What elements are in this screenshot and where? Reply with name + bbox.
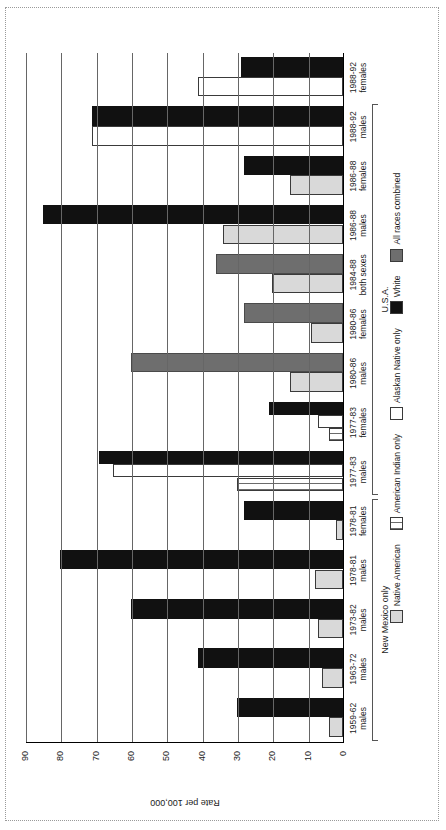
category-label: 1986-88males: [348, 210, 368, 241]
bar-native-american: [315, 570, 343, 590]
bar-native-american: [329, 717, 343, 737]
category-period: 1988-92: [348, 62, 358, 93]
category-label: 1978-81males: [348, 555, 368, 586]
category-sex: females: [358, 161, 368, 191]
bar-white: [244, 501, 343, 521]
gridline: [273, 53, 274, 742]
y-tick-label: 10: [303, 751, 313, 761]
y-tick-label: 20: [267, 751, 277, 761]
gridline: [238, 53, 239, 742]
category-label: 1973-82males: [348, 604, 368, 635]
category-sex: males: [358, 362, 368, 385]
bar-all-races-combined: [244, 303, 343, 323]
legend-item: Native American: [390, 544, 403, 623]
category-sex: females: [358, 408, 368, 438]
gridline: [26, 53, 27, 742]
legend-item: White: [390, 276, 403, 315]
category-label: 1986-88females: [348, 161, 368, 192]
bar-white: [237, 698, 343, 718]
bar-white: [241, 57, 343, 77]
plot-wrapper: 0102030405060708090 Rate per 100,000 195…: [18, 15, 428, 815]
category-sex: males: [358, 214, 368, 237]
y-tick-label: 80: [55, 751, 65, 761]
category-sex: males: [358, 116, 368, 139]
bar-white: [244, 156, 343, 176]
gridline: [203, 53, 204, 742]
legend-item: Alaskan Native only: [390, 328, 403, 420]
y-tick-label: 70: [91, 751, 101, 761]
category-label: 1963-72males: [348, 653, 368, 684]
bar-white: [43, 205, 343, 225]
bar-white: [131, 599, 343, 619]
category-label: 1988-92males: [348, 111, 368, 142]
category-sex: males: [358, 608, 368, 631]
category-period: 1986-88: [348, 210, 358, 241]
plot-area: [26, 53, 344, 743]
bar-layer: [26, 53, 343, 742]
group-bracket: [372, 499, 378, 741]
bar-native-american: [336, 520, 343, 540]
bar-alaskan-native-only: [318, 415, 343, 428]
alaskan-native-only-swatch: [390, 407, 403, 420]
category-period: 1973-82: [348, 604, 358, 635]
y-tick-label: 60: [126, 751, 136, 761]
chart-stage: 0102030405060708090 Rate per 100,000 195…: [18, 15, 428, 815]
bar-native-american: [223, 225, 343, 245]
gridline: [132, 53, 133, 742]
category-sex: males: [358, 461, 368, 484]
category-period: 1980-86: [348, 358, 358, 389]
y-tick-label: 90: [20, 751, 30, 761]
bar-white: [269, 402, 343, 415]
bar-american-indian-only: [237, 478, 343, 491]
category-sex: males: [358, 707, 368, 730]
category-label: 1980-86females: [348, 308, 368, 339]
gridline: [61, 53, 62, 742]
bar-native-american: [290, 372, 343, 392]
category-period: 1986-88: [348, 161, 358, 192]
category-period: 1963-72: [348, 653, 358, 684]
group-label: New Mexico only: [380, 586, 390, 654]
bar-alaskan-native-only: [92, 126, 343, 146]
category-label: 1978-81females: [348, 506, 368, 537]
bar-all-races-combined: [216, 254, 343, 274]
legend-item: American Indian only: [390, 434, 403, 530]
american-indian-only-swatch: [390, 517, 403, 530]
chart-page: 0102030405060708090 Rate per 100,000 195…: [0, 0, 446, 830]
category-label: 1980-86males: [348, 358, 368, 389]
group-label: U.S.A.: [380, 286, 390, 312]
bar-alaskan-native-only: [198, 77, 343, 97]
bar-native-american: [290, 175, 343, 195]
category-period: 1978-81: [348, 555, 358, 586]
category-period: 1988-92: [348, 111, 358, 142]
all-races-combined-swatch: [390, 249, 403, 262]
bar-white: [92, 106, 343, 126]
gridline: [167, 53, 168, 742]
legend-label: White: [392, 276, 402, 298]
native-american-swatch: [390, 610, 403, 623]
category-label: 1988-92females: [348, 62, 368, 93]
legend-label: Alaskan Native only: [392, 328, 402, 403]
category-sex: females: [358, 309, 368, 339]
y-tick-label: 40: [197, 751, 207, 761]
category-period: 1977-83: [348, 456, 358, 487]
bar-native-american: [322, 668, 343, 688]
gridline: [309, 53, 310, 742]
y-tick-label: 30: [232, 751, 242, 761]
category-sex: females: [358, 506, 368, 536]
y-tick-label: 0: [338, 751, 348, 756]
category-label: 1977-83females: [348, 407, 368, 438]
gridline: [97, 53, 98, 742]
y-tick-label: 50: [161, 751, 171, 761]
category-period: 1980-86: [348, 308, 358, 339]
legend-label: Native American: [392, 544, 402, 606]
category-label: 1977-83males: [348, 456, 368, 487]
bar-white: [198, 648, 343, 668]
category-period: 1984-88: [348, 259, 358, 290]
category-label: 1959-62males: [348, 703, 368, 734]
category-sex: males: [358, 559, 368, 582]
category-period: 1977-83: [348, 407, 358, 438]
category-sex: females: [358, 63, 368, 93]
bar-native-american: [318, 619, 343, 639]
category-sex: both sexes: [358, 254, 368, 295]
category-label: 1984-88both sexes: [348, 254, 368, 295]
